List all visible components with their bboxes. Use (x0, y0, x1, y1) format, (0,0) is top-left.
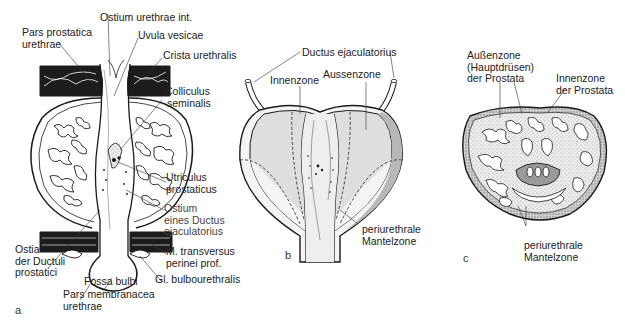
label-innenzone-der-prostata: Innenzone der Prostata (556, 73, 613, 96)
label-gl-bulbourethralis: Gl. bulbourethralis (155, 274, 240, 286)
panel-letter-c: c (463, 252, 469, 264)
label-ostium-urethrae-int: Ostium urethrae int. (100, 12, 192, 24)
label-aussenzone: Aussenzone (323, 69, 381, 81)
panel-c-drawing (463, 82, 607, 226)
label-ostia-ductuli-prostatici: Ostia der Ductuli prostatici (15, 244, 65, 279)
panel-letter-b: b (285, 249, 291, 261)
prostate-anatomy-figure: Pars prostatica urethrae Ostium urethrae… (0, 0, 625, 324)
label-ostium-ductus-ejaculatorius: Ostium eines Ductus ejaculatorius (164, 203, 225, 238)
label-crista-urethralis: Crista urethralis (163, 50, 237, 62)
label-uvula-vesicae: Uvula vesicae (138, 30, 203, 42)
label-periurethrale-mantelzone-c: periurethrale Mantelzone (524, 240, 583, 263)
label-aussenzone-hauptdruesen: Außenzone (Hauptdrüsen) der Prostata (467, 50, 534, 85)
label-innenzone: Innenzone (270, 75, 319, 87)
label-pars-membranacea-urethrae: Pars membranacea urethrae (63, 289, 155, 312)
label-ductus-ejaculatorius: Ductus ejaculatorius (302, 47, 397, 59)
label-utriculus-prostaticus: Utriculus prostaticus (166, 172, 217, 195)
label-m-transversus-perinei-prof: M. transversus perinei prof. (166, 246, 235, 269)
label-periurethrale-mantelzone-b: periurethrale Mantelzone (362, 224, 421, 247)
label-pars-prostatica-urethrae: Pars prostatica urethrae (22, 27, 92, 50)
panel-letter-a: a (15, 304, 21, 316)
label-colliculus-seminalis: Colliculus seminalis (165, 86, 211, 109)
label-fossa-bulbi: Fossa bulbi (84, 276, 138, 288)
